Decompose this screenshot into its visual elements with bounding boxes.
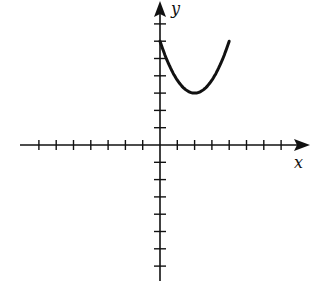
axes [20, 10, 300, 281]
y-axis-label: y [170, 0, 181, 18]
parabola-curve [160, 41, 229, 93]
coordinate-plane: x y [0, 0, 312, 288]
x-axis-label: x [294, 153, 303, 172]
